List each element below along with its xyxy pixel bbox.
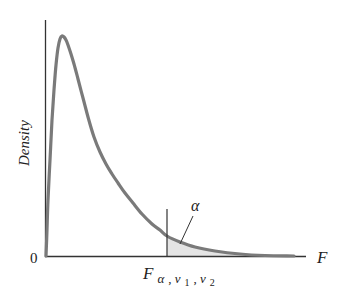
origin-label: 0 bbox=[30, 250, 38, 266]
f-distribution-chart: 0 F Density α F α , v 1 , v 2 bbox=[0, 0, 343, 302]
critical-value-base: F bbox=[142, 264, 154, 283]
sub-v1-index: 1 bbox=[185, 277, 190, 288]
x-axis-label: F bbox=[316, 248, 328, 267]
critical-value-label: F α , v 1 , v 2 bbox=[142, 264, 215, 289]
sub-v1: v bbox=[175, 271, 181, 286]
density-curve bbox=[46, 36, 294, 256]
sub-v2-index: 2 bbox=[210, 277, 215, 288]
sub-alpha: α bbox=[157, 271, 165, 286]
y-axis-label: Density bbox=[16, 120, 32, 167]
alpha-label: α bbox=[191, 197, 200, 214]
alpha-pointer-line bbox=[180, 216, 193, 244]
sub-v2: v bbox=[200, 271, 206, 286]
